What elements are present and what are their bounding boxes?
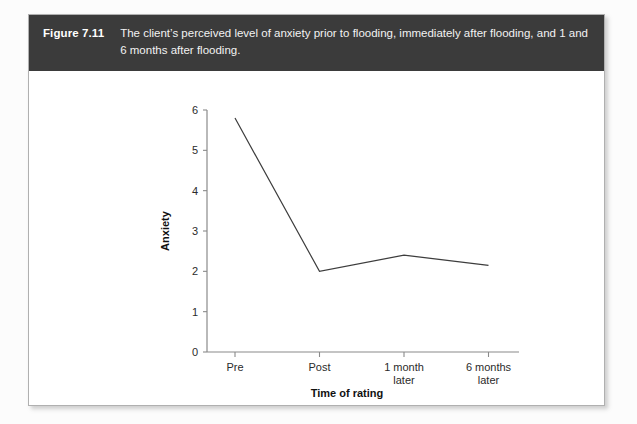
anxiety-line-chart: 0123456 PrePost1 monthlater6 monthslater… (29, 71, 606, 407)
y-tick-label: 1 (192, 306, 198, 318)
x-category-label: Pre (226, 361, 243, 373)
figure-caption-band: Figure 7.11 The client’s perceived level… (29, 15, 604, 71)
x-category-label: Post (308, 361, 330, 373)
figure-number-label: Figure 7.11 (43, 25, 104, 42)
x-category-label: 1 month (384, 361, 424, 373)
x-axis-title: Time of rating (311, 387, 384, 399)
y-tick-label: 3 (192, 225, 198, 237)
x-category-label: later (393, 374, 415, 386)
x-category-label: 6 months (466, 361, 512, 373)
data-series-line (235, 118, 489, 271)
y-axis-tick-labels: 0123456 (192, 104, 198, 358)
y-tick-label: 6 (192, 104, 198, 116)
x-axis-ticks (235, 352, 489, 357)
x-category-label: later (478, 374, 500, 386)
caption-row: Figure 7.11 The client’s perceived level… (43, 25, 588, 59)
caption-line-1: The client’s perceived level of anxiety … (120, 27, 556, 39)
page-root: { "figure": { "number_label": "Figure 7.… (0, 0, 637, 424)
chart-plot-area: 0123456 PrePost1 monthlater6 monthslater… (29, 71, 606, 407)
y-tick-label: 0 (192, 346, 198, 358)
figure-caption-text: The client’s perceived level of anxiety … (120, 25, 588, 59)
figure-frame: Figure 7.11 The client’s perceived level… (28, 14, 605, 406)
y-tick-label: 4 (192, 185, 198, 197)
y-tick-label: 2 (192, 265, 198, 277)
y-axis-title: Anxiety (159, 210, 171, 251)
x-axis-category-labels: PrePost1 monthlater6 monthslater (226, 361, 511, 386)
y-tick-label: 5 (192, 144, 198, 156)
